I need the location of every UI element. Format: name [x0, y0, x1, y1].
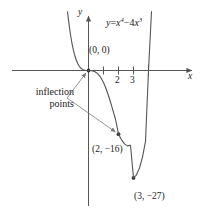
equation-label: y=x4−4x3 [106, 18, 142, 28]
label-point-2-neg16: (2, −16) [92, 145, 123, 155]
marker-point-origin [87, 69, 91, 73]
label-point-3-neg27: (3, −27) [134, 192, 165, 202]
figure-graph-of-quartic: y=x4−4x3 (0, 0) 2 3 x y inflection point… [0, 0, 204, 214]
leader-to-point-2-neg16 [67, 98, 116, 132]
inflection-leader-lines [67, 73, 116, 132]
inflection-label-line-1: inflection [36, 86, 74, 97]
x-tick-label-2: 2 [115, 76, 120, 86]
inflection-points-label: inflection points [2, 86, 74, 110]
label-point-origin: (0, 0) [89, 46, 110, 56]
equation-term2-exponent: 3 [139, 16, 142, 23]
inflection-label-line-2: points [50, 98, 74, 109]
x-axis-label: x [188, 72, 192, 82]
y-axis-label: y [78, 8, 82, 18]
marker-point-2-neg16 [117, 132, 121, 136]
marker-point-3-neg27 [132, 176, 136, 180]
x-tick-label-3: 3 [130, 76, 135, 86]
